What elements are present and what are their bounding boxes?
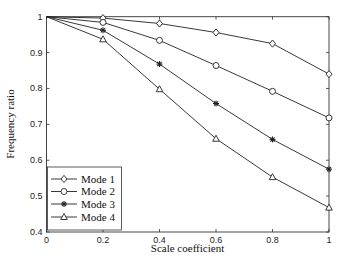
- circle-marker-icon: [61, 189, 67, 195]
- y-tick-label: 0.5: [30, 191, 43, 201]
- y-tick-label: 0.9: [30, 48, 43, 58]
- y-tick-label: 0.4: [30, 227, 43, 237]
- asterisk-marker-icon: [100, 27, 106, 33]
- circle-marker-icon: [157, 37, 163, 43]
- asterisk-marker-icon: [213, 101, 219, 107]
- circle-marker-icon: [326, 115, 332, 121]
- x-axis-label: Scale coefficient: [151, 242, 224, 254]
- y-tick-label: 1: [37, 12, 42, 22]
- y-tick-label: 0.8: [30, 83, 43, 93]
- x-tick-label: 1: [326, 235, 331, 245]
- circle-marker-icon: [213, 63, 219, 69]
- y-tick-label: 0.7: [30, 119, 43, 129]
- circle-marker-icon: [270, 88, 276, 94]
- asterisk-marker-icon: [326, 166, 332, 172]
- legend-label: Mode 2: [81, 185, 115, 197]
- frequency-ratio-chart: 00.20.40.60.810.40.50.60.70.80.91 Scale …: [0, 0, 350, 270]
- legend: Mode 1Mode 2Mode 3Mode 4: [48, 167, 122, 230]
- asterisk-marker-icon: [270, 136, 276, 142]
- asterisk-marker-icon: [157, 61, 163, 67]
- legend-label: Mode 1: [81, 173, 115, 185]
- legend-label: Mode 3: [81, 198, 115, 210]
- x-tick-label: 0.2: [97, 235, 110, 245]
- x-tick-label: 0.8: [266, 235, 279, 245]
- legend-label: Mode 4: [81, 211, 115, 223]
- y-axis-label: Frequency ratio: [4, 89, 16, 159]
- y-tick-label: 0.6: [30, 155, 43, 165]
- circle-marker-icon: [100, 19, 106, 25]
- x-tick-label: 0: [44, 235, 49, 245]
- asterisk-marker-icon: [61, 201, 67, 207]
